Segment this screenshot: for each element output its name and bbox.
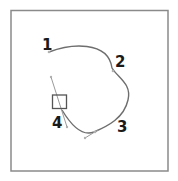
diagram-canvas: 1 2 3 4 (0, 0, 178, 181)
anchor-point-2[interactable] (112, 70, 115, 73)
handle-endpoint[interactable] (50, 76, 52, 78)
point-label-4: 4 (52, 114, 62, 132)
handle-endpoint[interactable] (66, 126, 68, 128)
frame-border (11, 11, 168, 172)
bezier-diagram: 1 2 3 4 (0, 0, 178, 181)
point-label-2: 2 (115, 53, 125, 71)
handle-endpoint[interactable] (84, 137, 86, 139)
anchor-point-3[interactable] (94, 131, 97, 134)
point-label-1: 1 (42, 36, 52, 54)
direction-handle-3[interactable] (85, 130, 98, 138)
point-label-3: 3 (117, 118, 127, 136)
selected-anchor-4[interactable] (53, 95, 67, 109)
